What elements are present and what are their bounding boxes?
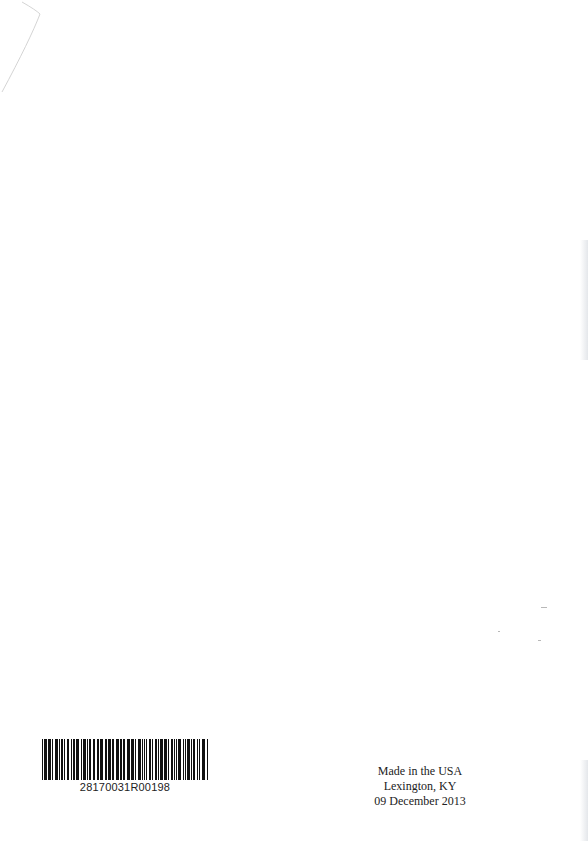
page-edge-shadow <box>580 760 588 841</box>
dust-speck <box>498 631 500 632</box>
imprint-made-in: Made in the USA <box>345 764 495 779</box>
dust-speck <box>541 607 547 608</box>
imprint-location: Lexington, KY <box>345 779 495 794</box>
dust-speck <box>538 640 541 641</box>
book-back-page: 28170031R00198 Made in the USA Lexington… <box>0 0 588 841</box>
barcode-block: 28170031R00198 <box>42 739 208 793</box>
barcode <box>42 739 208 780</box>
page-fold-mark <box>0 0 60 100</box>
barcode-bar <box>207 739 208 780</box>
imprint-date: 09 December 2013 <box>345 794 495 809</box>
page-edge-shadow <box>580 240 588 360</box>
printer-imprint: Made in the USA Lexington, KY 09 Decembe… <box>345 764 495 809</box>
barcode-number: 28170031R00198 <box>42 781 208 793</box>
